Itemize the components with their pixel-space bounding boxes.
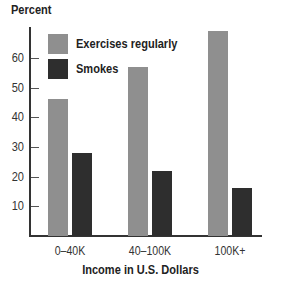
bar-smokes-0	[72, 153, 92, 236]
x-tick-label-40-100k: 40–100K	[115, 244, 185, 258]
y-axis-label: Percent	[11, 2, 52, 17]
legend-swatch-smokes	[48, 59, 68, 79]
legend-swatch-exercises	[48, 34, 68, 54]
bar-exercises-2	[208, 31, 228, 236]
x-tick-label-0-40k: 0–40K	[35, 244, 105, 258]
y-tick-label: 20	[5, 170, 24, 184]
y-tick	[31, 206, 39, 207]
y-tick	[31, 58, 39, 59]
y-tick-label: 60	[5, 51, 24, 65]
bar-smokes-2	[232, 188, 252, 236]
y-tick-label: 30	[5, 140, 24, 154]
bar-exercises-1	[128, 67, 148, 236]
y-tick	[31, 177, 39, 178]
y-tick	[31, 88, 39, 89]
bar-exercises-0	[48, 99, 68, 236]
y-tick	[31, 147, 39, 148]
legend-label-exercises: Exercises regularly	[76, 36, 177, 51]
x-axis-label: Income in U.S. Dollars	[21, 262, 260, 277]
y-tick	[31, 117, 39, 118]
bar-smokes-1	[152, 171, 172, 236]
y-tick-label: 10	[5, 199, 24, 213]
y-tick-label: 50	[5, 81, 24, 95]
legend-label-smokes: Smokes	[76, 61, 118, 76]
x-tick-label-100k-plus: 100K+	[195, 244, 265, 258]
y-tick-label: 40	[5, 110, 24, 124]
